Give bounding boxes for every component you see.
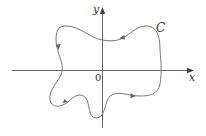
diagram-svg	[0, 0, 206, 136]
curve-c	[50, 26, 161, 118]
x-axis-label: x	[189, 72, 195, 83]
curve-label: C	[156, 22, 165, 34]
curve-arrow-bottom-right-icon	[131, 94, 137, 99]
origin-label: 0	[95, 73, 101, 83]
y-axis-label: y	[93, 4, 99, 15]
diagram-canvas: y x C 0	[0, 0, 206, 136]
x-axis	[12, 68, 194, 73]
y-axis-arrow-icon	[100, 7, 105, 14]
